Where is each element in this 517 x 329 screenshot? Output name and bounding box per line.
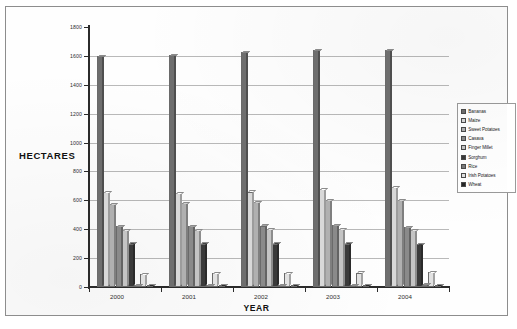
- y-tick-label: 1800: [70, 24, 82, 30]
- bar-bananas-2004: [385, 50, 391, 287]
- bar-rice-2002: [278, 285, 284, 287]
- bar-sweet-potatoes-2001: [181, 203, 187, 287]
- bar-group: [385, 27, 441, 287]
- x-tick: [161, 287, 162, 292]
- bar-bananas-2001: [169, 55, 175, 287]
- bar-rice-2004: [422, 284, 428, 287]
- y-tick: [84, 258, 89, 259]
- bar-casava-2001: [188, 226, 194, 287]
- y-tick: [84, 200, 89, 201]
- x-tick: [449, 287, 450, 292]
- legend-swatch-icon: [461, 173, 466, 178]
- y-tick-label: 600: [73, 197, 82, 203]
- x-tick: [233, 287, 234, 292]
- legend-swatch-icon: [461, 164, 466, 169]
- x-tick-label: 2002: [254, 293, 268, 300]
- y-tick-label: 200: [73, 255, 82, 261]
- bar-wheat-2000: [147, 285, 153, 287]
- bar-sweet-potatoes-2000: [109, 204, 115, 287]
- y-axis-line: [88, 25, 90, 289]
- legend-item-finger-millet[interactable]: Finger Millet: [461, 143, 513, 152]
- y-tick-label: 1400: [70, 82, 82, 88]
- bar-bananas-2003: [313, 50, 319, 287]
- plot-area: 020040060080010001200140016001800 200020…: [89, 27, 449, 287]
- x-tick: [377, 287, 378, 292]
- bar-sweet-potatoes-2004: [397, 200, 403, 287]
- legend-swatch-icon: [461, 118, 466, 123]
- bar-casava-2002: [260, 226, 266, 287]
- bar-group: [313, 27, 369, 287]
- bar-casava-2000: [116, 226, 122, 287]
- bar-wheat-2003: [363, 285, 369, 287]
- legend-swatch-icon: [461, 155, 466, 160]
- legend-item-rice[interactable]: Rice: [461, 162, 513, 171]
- legend-item-sorghum[interactable]: Sorghum: [461, 152, 513, 161]
- legend-item-casava[interactable]: Casava: [461, 134, 513, 143]
- y-tick: [84, 27, 89, 28]
- x-tick: [89, 287, 90, 292]
- x-axis-title: YEAR: [6, 303, 507, 313]
- legend-label: Irish Potatoes: [468, 173, 495, 178]
- y-tick-label: 800: [73, 168, 82, 174]
- bar-group: [97, 27, 153, 287]
- bar-rice-2001: [206, 285, 212, 287]
- bar-wheat-2001: [219, 285, 225, 287]
- legend-item-irish-potatoes[interactable]: Irish Potatoes: [461, 171, 513, 180]
- y-tick: [84, 56, 89, 57]
- bar-wheat-2002: [291, 285, 297, 287]
- bar-bananas-2002: [241, 52, 247, 287]
- bar-group: [241, 27, 297, 287]
- legend-label: Sorghum: [468, 155, 486, 160]
- legend-swatch-icon: [461, 136, 466, 141]
- bar-casava-2003: [332, 225, 338, 287]
- bar-rice-2003: [350, 285, 356, 287]
- x-tick-label: 2000: [110, 293, 124, 300]
- y-tick: [84, 171, 89, 172]
- legend-label: Bananas: [468, 109, 486, 114]
- y-tick-label: 1200: [70, 111, 82, 117]
- x-tick: [305, 287, 306, 292]
- legend-item-maize[interactable]: Maize: [461, 116, 513, 125]
- chart-frame: HECTARES 0200400600800100012001400160018…: [5, 6, 508, 316]
- bar-wheat-2004: [435, 285, 441, 287]
- legend-label: Finger Millet: [468, 145, 492, 150]
- bar-sweet-potatoes-2002: [253, 202, 259, 287]
- y-tick: [84, 85, 89, 86]
- y-axis-title: HECTARES: [19, 150, 75, 161]
- chart-legend: BananasMaizeSweet PotatoesCasavaFinger M…: [457, 103, 516, 193]
- legend-item-sweet-potatoes[interactable]: Sweet Potatoes: [461, 125, 513, 134]
- y-tick-label: 1600: [70, 53, 82, 59]
- legend-label: Rice: [468, 164, 477, 169]
- y-tick-label: 400: [73, 226, 82, 232]
- legend-swatch-icon: [461, 182, 466, 187]
- y-tick: [84, 114, 89, 115]
- legend-label: Maize: [468, 118, 480, 123]
- bar-casava-2004: [404, 227, 410, 287]
- legend-label: Wheat: [468, 182, 481, 187]
- y-tick: [84, 143, 89, 144]
- legend-item-wheat[interactable]: Wheat: [461, 180, 513, 189]
- legend-swatch-icon: [461, 109, 466, 114]
- legend-label: Casava: [468, 136, 483, 141]
- x-tick-label: 2004: [398, 293, 412, 300]
- bar-sweet-potatoes-2003: [325, 200, 331, 287]
- x-tick-label: 2001: [182, 293, 196, 300]
- bar-rice-2000: [134, 285, 140, 287]
- legend-swatch-icon: [461, 127, 466, 132]
- legend-swatch-icon: [461, 145, 466, 150]
- x-tick-label: 2003: [326, 293, 340, 300]
- y-tick-label: 0: [79, 284, 82, 290]
- legend-label: Sweet Potatoes: [468, 127, 499, 132]
- bar-bananas-2000: [97, 56, 103, 287]
- y-tick-label: 1000: [70, 140, 82, 146]
- y-tick: [84, 229, 89, 230]
- legend-item-bananas[interactable]: Bananas: [461, 107, 513, 116]
- bar-group: [169, 27, 225, 287]
